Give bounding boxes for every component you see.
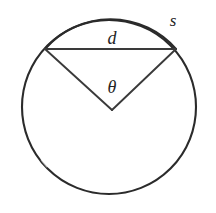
radius-right-line: [112, 49, 176, 110]
chord-length-label: d: [108, 29, 117, 47]
arc-length-label: s: [170, 12, 177, 29]
arc-fade-artifact: [42, 160, 47, 166]
geometry-figure: s d θ: [0, 0, 216, 213]
radius-left-line: [45, 49, 112, 110]
central-angle-label: θ: [108, 78, 117, 96]
